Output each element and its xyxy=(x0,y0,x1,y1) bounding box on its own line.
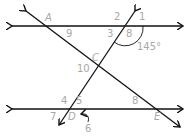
angle-label-10: 10 xyxy=(77,64,90,74)
angle-label-3: 3 xyxy=(107,29,113,39)
angle-label-6: 6 xyxy=(85,124,91,134)
angle-label-8-bottom: 8 xyxy=(132,96,138,106)
angle-label-7: 7 xyxy=(50,112,56,122)
diagram-lines xyxy=(0,0,194,137)
angle-label-4: 4 xyxy=(61,96,67,106)
point-label-c: C xyxy=(92,53,99,63)
angle-label-5: 5 xyxy=(76,96,82,106)
angle-label-1: 1 xyxy=(139,12,145,22)
point-label-d: D xyxy=(68,112,76,122)
angle-label-8-top: 8 xyxy=(126,29,132,39)
angle-arc-6 xyxy=(81,114,89,122)
angle-label-9: 9 xyxy=(66,29,72,39)
angle-measure-145: 145° xyxy=(137,42,161,52)
angle-label-2: 2 xyxy=(114,12,120,22)
point-label-e: E xyxy=(154,112,160,122)
geometry-diagram: A C D E 1 2 3 8 9 10 4 5 7 6 8 145° xyxy=(0,0,194,137)
point-label-a: A xyxy=(45,13,52,23)
